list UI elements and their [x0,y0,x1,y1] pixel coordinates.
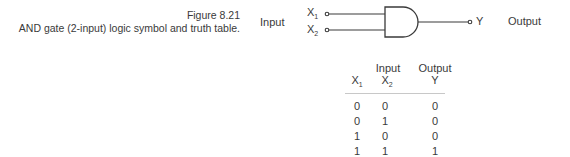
input-x2-terminal [325,28,329,32]
cell-r1-y: 0 [415,100,455,112]
and-gate-symbol [0,0,570,157]
input-x1-terminal [325,12,329,16]
cell-r1-x2: 0 [365,100,405,112]
group-header-output: Output [410,62,460,74]
output-terminal [468,20,472,24]
column-header-y: Y [415,74,455,86]
output-y-label: Y [476,15,483,27]
cell-r3-x2: 0 [365,130,405,142]
header-divider [345,93,445,94]
output-label: Output [508,15,541,27]
and-gate-body [385,7,418,37]
cell-r2-y: 0 [415,115,455,127]
cell-r4-x2: 1 [365,145,405,157]
group-header-input: Input [363,62,413,74]
column-header-x2: X2 [367,74,407,88]
cell-r4-y: 1 [415,145,455,157]
cell-r2-x2: 1 [365,115,405,127]
cell-r3-y: 0 [415,130,455,142]
